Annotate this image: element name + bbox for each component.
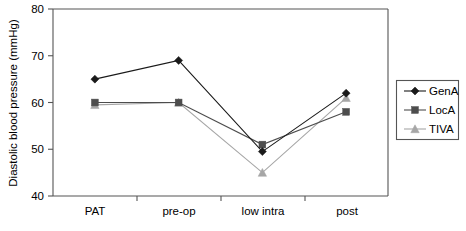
- x-category-label-pre-op: pre-op: [162, 205, 195, 217]
- x-category-label-post: post: [336, 205, 359, 217]
- y-tick-label-70: 70: [31, 50, 44, 62]
- x-category-label-low-intra: low intra: [242, 205, 285, 217]
- x-category-label-pat: PAT: [85, 205, 106, 217]
- y-tick-marks: [48, 9, 53, 196]
- legend-marker-loca: [412, 107, 419, 114]
- data-point-loca-pre-op: [175, 99, 182, 106]
- data-point-loca-post: [343, 108, 350, 115]
- series-line-tiva: [95, 98, 346, 173]
- y-tick-label-40: 40: [31, 190, 44, 202]
- legend: GenA LocA TIVA: [397, 81, 459, 140]
- y-tick-label-80: 80: [31, 3, 44, 15]
- chart-container: 40 50 60 70 80 Diastolic blood pressure …: [0, 0, 466, 231]
- series-layer: [91, 56, 351, 176]
- legend-label-gena: GenA: [429, 85, 459, 97]
- y-tick-label-50: 50: [31, 143, 44, 155]
- data-point-loca-PAT: [91, 99, 98, 106]
- y-axis-title: Diastolic blood pressure (mmHg): [7, 19, 19, 187]
- data-point-gena-post: [342, 89, 350, 97]
- x-tick-marks: [137, 196, 305, 201]
- legend-label-tiva: TIVA: [429, 123, 454, 135]
- legend-label-loca: LocA: [429, 104, 456, 116]
- line-chart: 40 50 60 70 80 Diastolic blood pressure …: [0, 0, 466, 231]
- data-point-loca-low-intra: [259, 141, 266, 148]
- y-tick-label-60: 60: [31, 97, 44, 109]
- data-point-gena-PAT: [91, 75, 99, 83]
- series-gena: [91, 56, 350, 155]
